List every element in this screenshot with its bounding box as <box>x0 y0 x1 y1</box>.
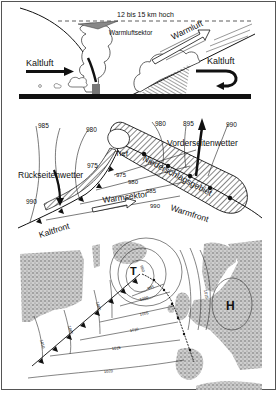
map-isobar-label: 1020 <box>104 368 114 374</box>
map-isobar-label: 1000 <box>139 294 150 301</box>
map-isobar-label: 1005 <box>67 325 74 336</box>
airflow-streak <box>214 24 252 40</box>
map-isobar-label: 995 <box>147 284 156 291</box>
isobar-label: 975 <box>87 162 98 169</box>
cold-front-label: Kaltfront <box>38 220 72 239</box>
weather-front-diagram: 12 bis 15 km hoch Warmluft Warmluftsekto… <box>0 0 279 393</box>
warm-sector-label: Warmluftsektor <box>109 29 153 36</box>
cold-air-right-label: Kaltluft <box>207 56 235 66</box>
small-cloud <box>68 77 87 87</box>
isobar-label: 980 <box>86 126 97 133</box>
isobar-label: 985 <box>146 188 157 194</box>
airflow-streak <box>210 30 250 46</box>
isobar-label: 980 <box>128 179 139 185</box>
landmass-britain <box>175 292 190 320</box>
isobar-label: 990 <box>26 198 37 205</box>
map-isobar-label: 1010 <box>39 339 46 350</box>
landmass-island <box>92 244 100 268</box>
low-pressure-symbol: T <box>130 265 137 277</box>
cold-air-left-label: Kaltluft <box>26 58 54 68</box>
map-isobar-label: 1015 <box>203 289 210 299</box>
warm-front-label: Warmfront <box>169 202 210 224</box>
high-pressure-symbol: H <box>226 299 235 313</box>
landmass-iberia <box>176 348 204 380</box>
isobar-label: 990 <box>150 203 161 209</box>
landmass-africa <box>196 381 262 390</box>
rear-weather-label: Rückseitenwetter <box>18 170 83 180</box>
cyclone-schematic-panel: 985 980 975 975 980 985 990 990 980 895 … <box>18 118 262 240</box>
front-weather-label: Vorderseitenwetter <box>167 138 238 148</box>
small-cloud-dot <box>39 85 42 88</box>
cold-air-arrow-left <box>26 67 74 76</box>
map-isobar-label: 990 <box>139 265 146 274</box>
isobar-label: 975 <box>116 172 127 178</box>
airflow-streak <box>206 36 248 52</box>
isobar-label: 990 <box>226 121 237 128</box>
ground-surface <box>19 94 251 99</box>
cross-section-panel: 12 bis 15 km hoch Warmluft Warmluftsekto… <box>19 8 255 99</box>
landmass-iceland <box>112 242 147 265</box>
isobar-label: 980 <box>155 120 166 127</box>
low-label: Tief <box>115 149 129 158</box>
isobar-label: 895 <box>183 120 194 127</box>
map-isobar-label: 1000 <box>95 301 102 312</box>
landmass-greenland <box>20 250 84 322</box>
small-cloud-dot <box>54 84 61 88</box>
map-isobar-label: 1005 <box>139 310 150 317</box>
front-weather-arrowhead <box>198 118 206 130</box>
map-isobar-label: 1015 <box>111 345 121 351</box>
weather-map-panel: T H 995 1000 1005 1010 1015 1020 1010 10… <box>20 238 262 390</box>
height-label: 12 bis 15 km hoch <box>117 11 174 18</box>
cold-air-arrow-right <box>196 71 236 90</box>
map-isobar-label: 1010 <box>129 326 139 333</box>
isobar-label: 985 <box>38 122 49 129</box>
